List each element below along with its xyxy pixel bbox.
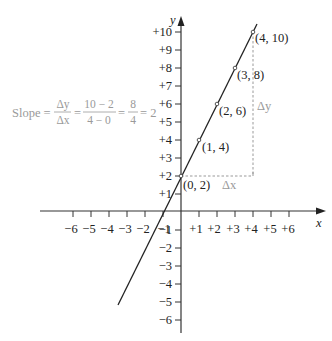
slope-formula: Slope = Δy Δx = 10 − 2 4 − 0 = 8 4 = 2 [12, 98, 156, 126]
delta-y-label: Δy [257, 99, 272, 113]
fraction-result-denominator: 4 [130, 114, 136, 126]
y-tick-label: +2 [159, 169, 172, 183]
y-axis-arrow-icon [178, 16, 185, 26]
point-marker [197, 138, 201, 142]
x-tick-label: +2 [207, 222, 220, 236]
y-tick-label: +4 [159, 133, 173, 147]
y-tick-labels: +1 +2 +3 +4 +5 +6 +7 +8 +9 +10 −1 −2 −3 … [152, 25, 172, 327]
fraction-delta-numerator: Δy [56, 98, 69, 111]
y-tick-label: +7 [159, 79, 172, 93]
x-tick-label: −2 [136, 222, 149, 236]
x-tick-label: −6 [64, 222, 77, 236]
x-axis-arrow-icon [316, 208, 326, 215]
y-tick-label: −4 [159, 277, 173, 291]
y-tick-label: +3 [159, 151, 172, 165]
y-tick-label: +9 [159, 43, 172, 57]
x-axis-label: x [315, 216, 322, 230]
point-label: (1, 4) [202, 140, 229, 154]
point-label: (4, 10) [255, 31, 288, 45]
x-tick-label: −3 [118, 222, 131, 236]
fraction-values-denominator: 4 − 0 [87, 114, 111, 126]
fraction-values-numerator: 10 − 2 [84, 98, 114, 110]
x-tick-label: −5 [82, 222, 95, 236]
fraction-result-numerator: 8 [130, 98, 136, 110]
x-tick-label: +5 [263, 222, 276, 236]
fraction-delta-denominator: Δx [56, 114, 69, 126]
y-tick-label: −6 [159, 313, 172, 327]
point-label: (0, 2) [183, 178, 210, 192]
y-tick-label: −5 [159, 295, 172, 309]
y-tick-label: +10 [152, 25, 172, 39]
slope-word: Slope = [12, 106, 51, 120]
slope-result: = 2 [140, 106, 156, 120]
x-tick-label: +6 [281, 222, 294, 236]
point-label: (2, 6) [219, 104, 246, 118]
y-tick-label: +8 [159, 61, 172, 75]
equals-sign: = [118, 106, 125, 120]
y-tick-label: +5 [159, 115, 172, 129]
x-tick-labels: −6 −5 −4 −3 −2 −1 +1 +2 +3 +4 +5 +6 [64, 222, 294, 236]
equals-sign: = [74, 106, 81, 120]
point-label: (3, 8) [237, 68, 264, 82]
y-tick-label: −1 [159, 223, 172, 237]
delta-x-label: Δx [222, 178, 237, 192]
y-tick-label: −2 [159, 241, 172, 255]
y-tick-label: −3 [159, 259, 172, 273]
y-tick-label: +6 [159, 97, 172, 111]
x-tick-label: +3 [226, 222, 239, 236]
x-tick-label: +1 [189, 222, 202, 236]
x-tick-label: −4 [100, 222, 114, 236]
point-labels: (0, 2) (1, 4) (2, 6) (3, 8) (4, 10) [183, 31, 288, 192]
slope-chart: x y −6 −5 −4 −3 −2 −1 +1 +2 +3 +4 +5 +6 [0, 0, 332, 341]
x-tick-label: +4 [244, 222, 258, 236]
